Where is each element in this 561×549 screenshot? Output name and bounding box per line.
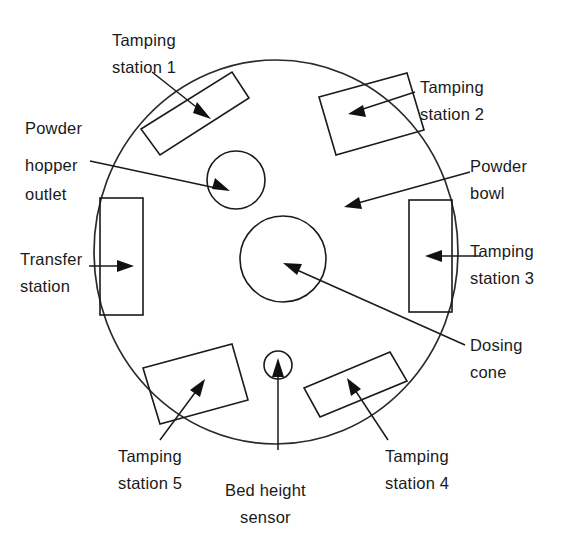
tamping-station-4-label-line1: Tamping [385, 447, 449, 465]
powder-bowl-leader [344, 172, 470, 209]
diagram-canvas: Tamping station 1 Tamping station 2 Powd… [0, 0, 561, 549]
powder-bowl-label-line2: bowl [470, 184, 505, 202]
tamping-station-3-label-line1: Tamping [470, 242, 534, 260]
tamping-station-1-leader [152, 72, 211, 119]
tamping-station-4-label-line2: station 4 [385, 474, 449, 492]
powder-hopper-outlet-label-line1: Powder [25, 119, 82, 137]
tamping-station-2-label-line2: station 2 [420, 105, 484, 123]
powder-hopper-outlet-label-line2: hopper [25, 156, 78, 174]
transfer-station-label-line1: Transfer [20, 250, 83, 268]
tamping-station-2-label-line1: Tamping [420, 78, 484, 96]
tamping-station-5-label-line2: station 5 [118, 474, 182, 492]
transfer-station-label-line2: station [20, 277, 70, 295]
transfer-station-leader [89, 260, 134, 272]
tamping-station-2-block [319, 73, 424, 155]
tamping-station-3-label-line2: station 3 [470, 269, 534, 287]
tamping-station-1-label-line1: Tamping [112, 31, 176, 49]
bed-height-sensor-label-line2: sensor [240, 508, 291, 526]
bed-height-sensor-leader [272, 358, 284, 450]
tamping-station-4-block [304, 352, 407, 417]
dosing-cone-leader [283, 263, 465, 345]
powder-hopper-outlet-label-line3: outlet [25, 185, 67, 203]
bed-height-sensor-label-line1: Bed height [225, 481, 306, 499]
dosing-cone-circle [240, 216, 326, 302]
dosing-cone-label-line1: Dosing [470, 336, 523, 354]
tamping-station-1-label-line2: station 1 [112, 58, 176, 76]
tamping-station-5-leader [160, 379, 205, 440]
powder-hopper-outlet-leader [90, 161, 230, 191]
turret-schematic: Tamping station 1 Tamping station 2 Powd… [0, 0, 561, 549]
tamping-station-5-block [143, 344, 248, 424]
transfer-station-block [100, 198, 143, 315]
dosing-cone-label-line2: cone [470, 363, 507, 381]
tamping-station-5-label-line1: Tamping [118, 447, 182, 465]
powder-bowl-label-line1: Powder [470, 157, 527, 175]
